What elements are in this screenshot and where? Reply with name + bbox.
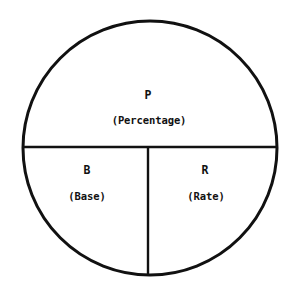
region-label-base-word: (Base) xyxy=(68,191,105,202)
region-label-percentage-symbol: P xyxy=(145,90,152,102)
region-label-rate-word: (Rate) xyxy=(187,191,224,202)
percentage-circle-diagram: P (Percentage) B (Base) R (Rate) xyxy=(0,0,290,297)
region-label-percentage-word: (Percentage) xyxy=(112,115,187,126)
label-layer: P (Percentage) B (Base) R (Rate) xyxy=(0,0,290,297)
region-label-rate-symbol: R xyxy=(202,165,209,177)
region-label-base-symbol: B xyxy=(84,165,91,177)
